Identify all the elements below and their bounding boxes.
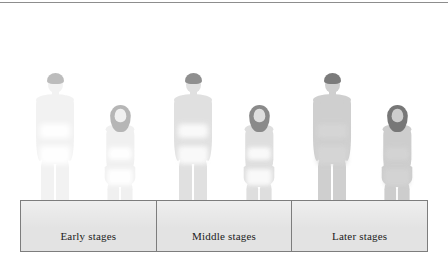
garment-band-chest xyxy=(247,147,270,160)
stage-label-later: Later stages xyxy=(332,230,387,251)
illustration-canvas: Early stages Middle stages Later stages xyxy=(0,0,448,264)
garment-band-chest xyxy=(108,147,131,160)
garment-band-shorts xyxy=(246,169,271,185)
face xyxy=(114,108,126,122)
garment-band-shorts xyxy=(384,169,409,185)
garment-band-chest xyxy=(40,124,70,138)
stage-cell-early: Early stages xyxy=(21,201,156,251)
garment-band-shorts xyxy=(317,146,347,164)
garment-band-chest xyxy=(178,124,208,138)
stage-label-middle: Middle stages xyxy=(192,230,256,251)
stage-cell-later: Later stages xyxy=(291,201,427,251)
garment-band-shorts xyxy=(178,146,208,164)
face xyxy=(253,108,265,122)
garment-band-chest xyxy=(385,147,408,160)
stage-label-early: Early stages xyxy=(60,230,116,251)
face xyxy=(391,108,403,122)
stage-legend-box: Early stages Middle stages Later stages xyxy=(20,200,428,252)
hair-male xyxy=(324,73,341,84)
garment-band-shorts xyxy=(40,146,70,164)
hair-male xyxy=(47,73,64,84)
garment-band-chest xyxy=(317,124,347,138)
stage-cell-middle: Middle stages xyxy=(156,201,292,251)
hair-male xyxy=(185,73,202,84)
garment-band-shorts xyxy=(107,169,132,185)
